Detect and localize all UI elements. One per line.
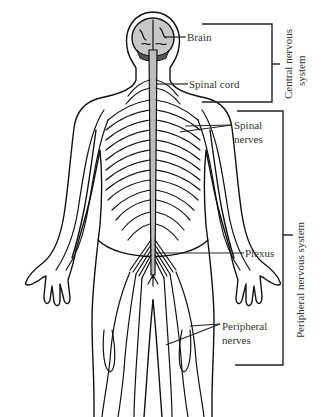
label-peripheral-nerves-2: nerves bbox=[222, 334, 251, 346]
label-spinal-cord: Spinal cord bbox=[189, 78, 240, 90]
label-plexus: Plexus bbox=[245, 247, 274, 259]
label-cns-1: Central nervous bbox=[282, 29, 294, 99]
label-brain: Brain bbox=[187, 31, 212, 43]
cns-bracket: Central nervous system bbox=[202, 24, 307, 102]
label-pns: Peripheral nervous system bbox=[294, 221, 306, 338]
label-peripheral-nerves-1: Peripheral bbox=[222, 320, 267, 332]
label-spinal-nerves-1: Spinal bbox=[234, 119, 262, 131]
label-cns-2: system bbox=[295, 55, 307, 86]
nervous-system-diagram: Brain Spinal cord Spinal nerves Plexus P… bbox=[0, 0, 330, 417]
label-spinal-nerves-2: nerves bbox=[234, 133, 263, 145]
leg-nerves bbox=[102, 272, 204, 417]
